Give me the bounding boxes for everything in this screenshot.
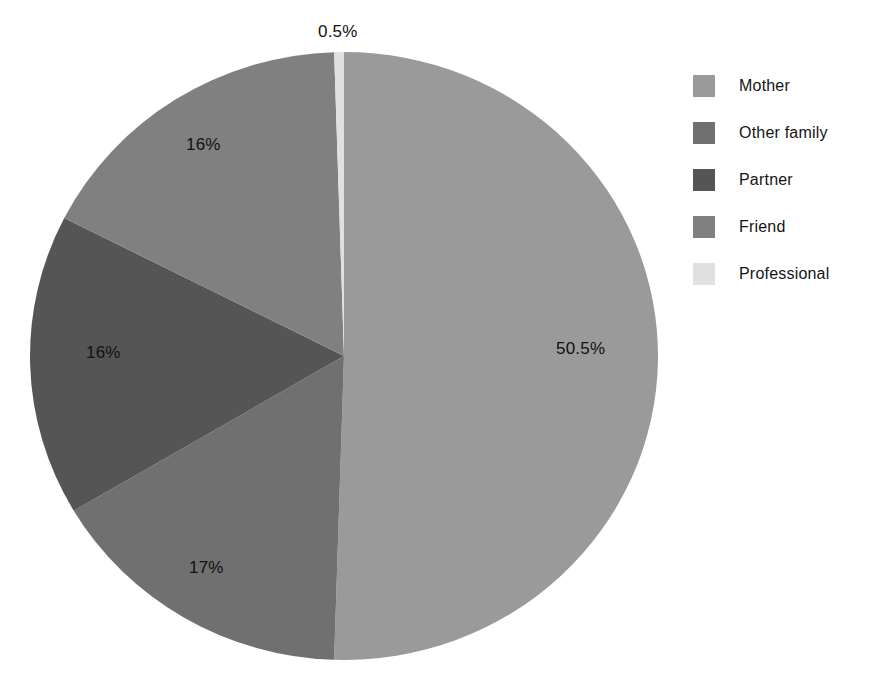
slice-label-professional: 0.5% [318,22,358,42]
slice-label-other-family: 16% [186,135,221,155]
legend-swatch-icon [693,75,715,97]
pie-slice[interactable] [334,52,658,660]
legend-item[interactable]: Professional [693,262,873,286]
slice-label-friend: 17% [189,558,224,578]
legend-label: Partner [739,171,793,189]
pie-svg [0,0,680,674]
legend-swatch-icon [693,263,715,285]
pie-chart: 0.5% 16% 16% 17% 50.5% MotherOther famil… [0,0,877,674]
legend-swatch-icon [693,216,715,238]
legend-label: Professional [739,265,829,283]
legend-item[interactable]: Friend [693,215,873,239]
legend-swatch-icon [693,122,715,144]
legend-swatch-icon [693,169,715,191]
legend-label: Other family [739,124,828,142]
pie-plot-area: 0.5% 16% 16% 17% 50.5% [0,0,680,674]
legend-label: Mother [739,77,790,95]
slice-label-partner: 16% [86,343,121,363]
legend-label: Friend [739,218,786,236]
legend-item[interactable]: Mother [693,74,873,98]
legend-item[interactable]: Other family [693,121,873,145]
slice-label-mother: 50.5% [556,339,605,359]
chart-legend: MotherOther familyPartnerFriendProfessio… [693,74,873,309]
legend-item[interactable]: Partner [693,168,873,192]
